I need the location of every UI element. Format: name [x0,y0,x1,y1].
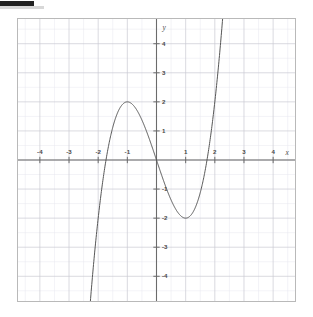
y-tick-label: 3 [162,69,166,76]
x-tick-label: 1 [184,148,188,155]
x-axis-label: x [284,148,289,157]
y-axis-label: y [161,23,166,32]
x-tick-label: -3 [66,148,72,155]
axis-name-labels: xy [161,23,289,157]
y-tick-label: 1 [162,127,166,134]
cubic-function-graph: -4-3-2-112344321-1-2-3-4 xy [18,19,295,301]
x-tick-label: 2 [213,148,217,155]
x-tick-label: 3 [242,148,246,155]
top-left-artifact-bar-secondary [0,6,44,9]
x-tick-label: -1 [125,148,131,155]
x-tick-label: -4 [37,148,43,155]
y-tick-label: -2 [162,214,168,221]
y-tick-label: 2 [162,98,166,105]
y-tick-label: 4 [162,40,166,47]
y-tick-label: -3 [162,243,168,250]
x-tick-label: 4 [271,148,275,155]
x-tick-label: -2 [95,148,101,155]
graph-plot-area: -4-3-2-112344321-1-2-3-4 xy [17,18,296,302]
y-tick-label: -4 [162,272,168,279]
